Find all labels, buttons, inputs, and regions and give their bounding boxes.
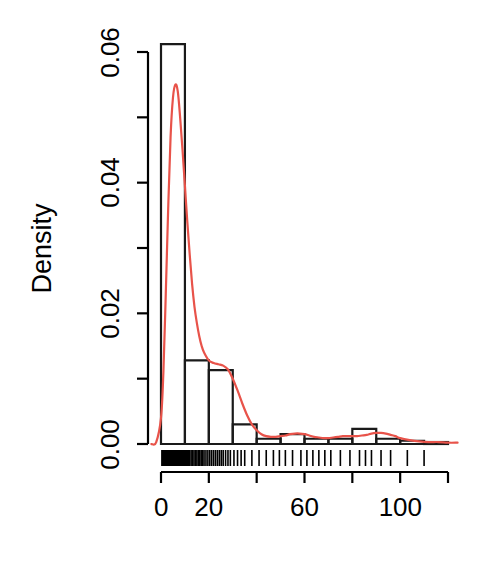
y-tick-label-0.02: 0.02 [94, 288, 125, 339]
rug-plot [162, 450, 424, 466]
x-tick-label-20: 20 [194, 492, 223, 523]
plot-canvas [0, 0, 492, 573]
x-tick-label-0: 0 [154, 492, 168, 523]
y-tick-label-0.00: 0.00 [94, 419, 125, 470]
y-axis [137, 52, 148, 444]
x-tick-label-60: 60 [290, 492, 319, 523]
density-curve [151, 84, 457, 444]
histogram-bar [209, 370, 233, 444]
histogram-bars [161, 44, 448, 444]
histogram-bar [185, 360, 209, 444]
x-tick-label-100: 100 [379, 492, 422, 523]
density-histogram-figure: Density 0.00 0.02 0.04 0.06 0 20 60 100 [0, 0, 492, 573]
x-axis [161, 472, 448, 483]
y-axis-title: Density [27, 203, 58, 293]
y-tick-label-0.04: 0.04 [94, 157, 125, 208]
density-line [151, 84, 457, 444]
y-tick-label-0.06: 0.06 [94, 27, 125, 78]
